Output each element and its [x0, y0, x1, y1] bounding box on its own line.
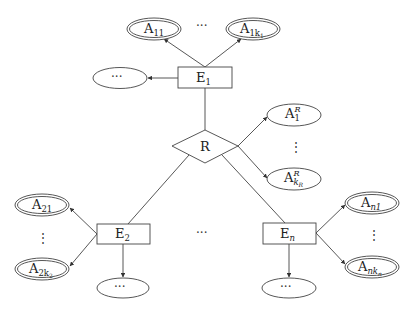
edge-en-an1	[316, 205, 345, 233]
edge-e2-a2k2	[70, 234, 97, 266]
top-ellipsis: ···	[196, 19, 207, 33]
e2-more-attributes: ···	[97, 278, 149, 298]
edge-e1-a11	[164, 39, 205, 67]
attribute-a1k1: A1k1	[226, 18, 280, 40]
relationship-r: R	[172, 130, 238, 163]
attribute-a21: A21	[15, 194, 69, 216]
attribute-an1: An1	[345, 192, 399, 214]
edge-r-ar1	[238, 117, 267, 146]
er-diagram: A11 ··· A1k1 E1 ··· R AR1 ⋮ ARkR A21 ⋮ A…	[0, 0, 411, 310]
e1-more-attributes: ···	[93, 68, 147, 89]
edge-en-ankn	[316, 233, 345, 264]
entity-e2: E2	[97, 224, 150, 244]
en-attr-vertical-ellipsis: ⋮	[368, 228, 380, 242]
entity-e1: E1	[178, 67, 232, 88]
e2-attr-vertical-ellipsis: ⋮	[37, 231, 49, 245]
edge-e2-a21	[70, 208, 97, 234]
edge-r-arkr	[238, 146, 267, 178]
attribute-arkr: ARkR	[267, 168, 321, 190]
en-more-attributes: ···	[262, 278, 316, 298]
attribute-ankn: Ankn	[345, 256, 399, 278]
edge-e1-a1k1	[205, 39, 241, 67]
svg-text:···: ···	[111, 70, 122, 84]
svg-text:···: ···	[114, 280, 125, 294]
attribute-ar1: AR1	[267, 104, 321, 126]
entity-en: En	[263, 223, 316, 244]
edge-r-e2	[128, 155, 189, 224]
r-attr-vertical-ellipsis: ⋮	[290, 140, 302, 154]
edge-r-en	[222, 155, 285, 223]
svg-text:AR1: AR1	[284, 105, 300, 123]
attribute-a2k2: A2k2	[15, 258, 69, 280]
svg-text:···: ···	[280, 280, 291, 294]
attribute-a11: A11	[127, 18, 181, 40]
entities-ellipsis: ···	[196, 226, 207, 240]
svg-text:R: R	[200, 139, 211, 154]
